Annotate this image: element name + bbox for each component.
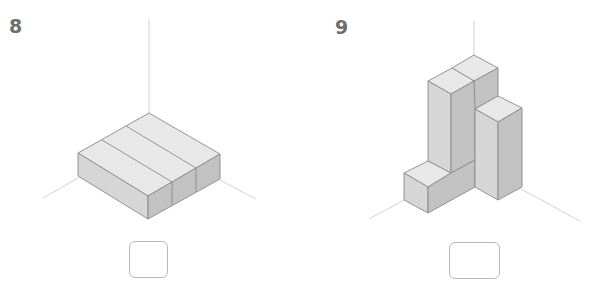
figure-8-blocks xyxy=(78,113,220,219)
answer-box-9[interactable] xyxy=(449,242,500,279)
answer-box-8[interactable] xyxy=(129,241,168,278)
isometric-figures xyxy=(0,0,591,291)
figure-9-blocks xyxy=(404,55,522,213)
